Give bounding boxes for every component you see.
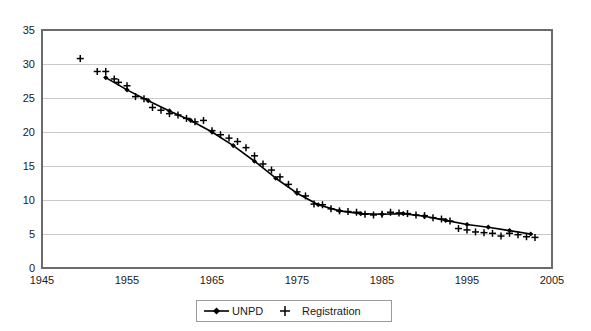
y-tick-20: 20 <box>23 126 35 138</box>
y-tick-35: 35 <box>23 24 35 36</box>
y-tick-0: 0 <box>29 262 35 274</box>
x-tick-1985: 1985 <box>370 274 394 286</box>
y-tick-5: 5 <box>29 228 35 240</box>
legend-label-registration: Registration <box>302 305 361 317</box>
y-tick-30: 30 <box>23 58 35 70</box>
y-tick-25: 25 <box>23 92 35 104</box>
x-tick-2005: 2005 <box>540 274 564 286</box>
chart-legend: UNPD Registration <box>196 300 391 321</box>
y-tick-15: 15 <box>23 160 35 172</box>
chart-container: 05101520253035 1945195519651975198519952… <box>0 0 591 331</box>
chart-canvas: 05101520253035 1945195519651975198519952… <box>0 0 591 331</box>
legend-label-unpd: UNPD <box>232 305 263 317</box>
x-tick-1975: 1975 <box>285 274 309 286</box>
x-tick-1965: 1965 <box>200 274 224 286</box>
x-tick-1995: 1995 <box>455 274 479 286</box>
x-tick-1955: 1955 <box>115 274 139 286</box>
x-tick-1945: 1945 <box>30 274 54 286</box>
y-tick-10: 10 <box>23 194 35 206</box>
